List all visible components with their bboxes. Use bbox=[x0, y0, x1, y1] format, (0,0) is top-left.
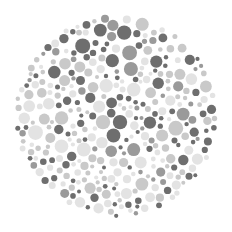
dot bbox=[68, 138, 72, 142]
dot bbox=[80, 162, 88, 170]
dot bbox=[77, 120, 84, 127]
dot bbox=[47, 125, 52, 130]
dot bbox=[76, 30, 82, 36]
dot bbox=[104, 74, 108, 78]
dot bbox=[89, 113, 96, 120]
dot bbox=[135, 197, 142, 204]
dot bbox=[142, 39, 147, 44]
dot bbox=[138, 72, 143, 77]
dot bbox=[40, 158, 47, 165]
dot bbox=[115, 75, 120, 80]
dot bbox=[60, 189, 69, 198]
dot bbox=[16, 105, 22, 111]
dot bbox=[134, 106, 139, 111]
dot bbox=[145, 87, 156, 98]
dot bbox=[156, 202, 162, 208]
dot bbox=[186, 173, 193, 180]
dot bbox=[136, 178, 149, 191]
dot bbox=[83, 137, 88, 142]
dot bbox=[30, 142, 35, 147]
dot bbox=[94, 175, 98, 179]
dot bbox=[166, 71, 173, 78]
dot bbox=[118, 198, 122, 202]
dot bbox=[177, 102, 182, 107]
dot bbox=[82, 177, 87, 182]
dot bbox=[139, 80, 143, 84]
dot bbox=[46, 145, 50, 149]
dot bbox=[92, 19, 96, 23]
dot bbox=[171, 164, 177, 170]
dot bbox=[159, 27, 164, 32]
dot bbox=[172, 181, 181, 190]
dot bbox=[169, 108, 175, 114]
dot bbox=[203, 117, 211, 125]
dot bbox=[164, 55, 168, 59]
dot bbox=[70, 29, 75, 34]
dot bbox=[39, 65, 43, 69]
dot bbox=[82, 127, 87, 132]
dot bbox=[54, 125, 63, 134]
dot bbox=[39, 114, 50, 125]
dot bbox=[47, 165, 53, 171]
dot bbox=[75, 197, 85, 207]
dot bbox=[84, 69, 92, 77]
dot bbox=[140, 116, 144, 120]
dot bbox=[88, 133, 96, 141]
dot bbox=[151, 157, 156, 162]
dot bbox=[138, 170, 143, 175]
dot bbox=[76, 107, 81, 112]
dot bbox=[210, 93, 215, 98]
dot bbox=[105, 145, 117, 157]
dot bbox=[156, 168, 165, 177]
dot bbox=[181, 181, 185, 185]
dot bbox=[152, 111, 158, 117]
dot bbox=[75, 25, 79, 29]
dot bbox=[191, 140, 196, 145]
dot bbox=[120, 86, 126, 92]
dot bbox=[55, 111, 68, 124]
dot bbox=[128, 165, 132, 169]
dot bbox=[97, 157, 104, 164]
dot bbox=[165, 164, 169, 168]
dot bbox=[31, 162, 38, 169]
dot bbox=[33, 73, 38, 78]
dot bbox=[59, 58, 71, 70]
dot bbox=[130, 121, 139, 130]
dot bbox=[197, 102, 202, 107]
dot bbox=[59, 75, 70, 86]
dot bbox=[159, 116, 164, 121]
dot bbox=[136, 130, 140, 134]
dot bbox=[74, 169, 81, 176]
dot bbox=[168, 121, 183, 136]
dot bbox=[176, 174, 181, 179]
dot bbox=[153, 78, 164, 89]
dot bbox=[184, 122, 188, 126]
dot bbox=[32, 81, 39, 88]
dot bbox=[96, 187, 101, 192]
dot bbox=[114, 168, 122, 176]
dot bbox=[93, 126, 98, 131]
dot bbox=[178, 155, 188, 165]
dot bbox=[48, 66, 61, 79]
dot bbox=[52, 48, 59, 55]
dot bbox=[174, 69, 185, 80]
dot bbox=[155, 150, 161, 156]
dot bbox=[64, 49, 69, 54]
dot bbox=[159, 34, 168, 43]
dot bbox=[204, 155, 209, 160]
dot bbox=[161, 93, 166, 98]
dot bbox=[146, 174, 150, 178]
dot bbox=[49, 157, 55, 163]
dot bbox=[24, 125, 29, 130]
dot bbox=[62, 161, 69, 168]
dot bbox=[167, 117, 171, 121]
dot bbox=[42, 177, 49, 184]
dot bbox=[48, 83, 54, 89]
dot bbox=[143, 46, 152, 55]
dot bbox=[158, 47, 163, 52]
dot bbox=[96, 115, 110, 129]
dot bbox=[158, 124, 163, 129]
dot bbox=[75, 100, 80, 105]
dot bbox=[86, 205, 90, 209]
dot bbox=[156, 129, 168, 141]
